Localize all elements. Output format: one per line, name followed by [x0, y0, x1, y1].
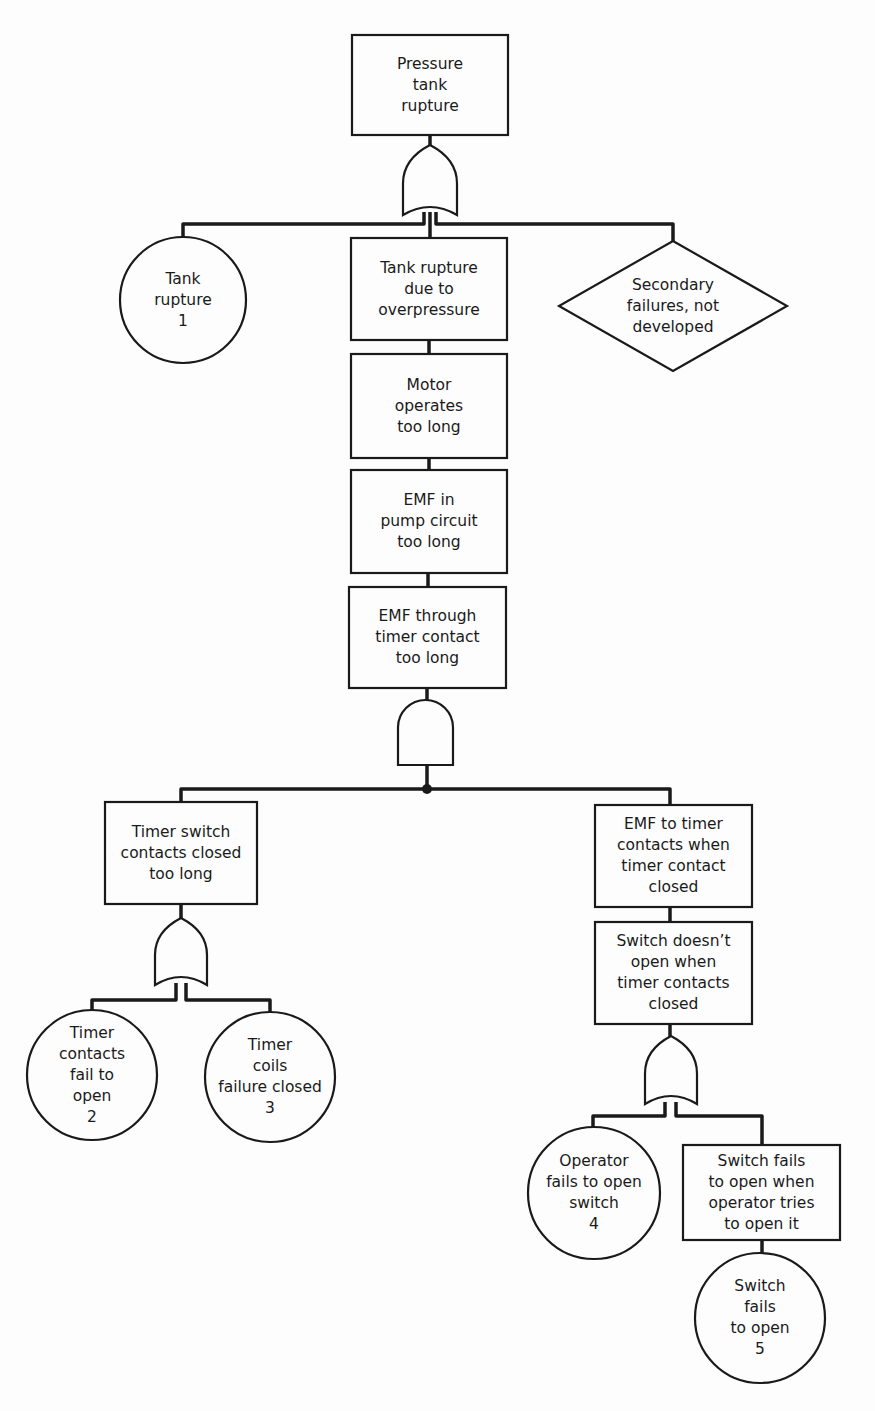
basic-event: Timer contacts fail to open 2 [27, 1010, 157, 1140]
connector-gate-e4 [593, 1102, 665, 1127]
intermediate-event: EMF in pump circuit too long [351, 470, 507, 573]
junction-dot [422, 784, 432, 794]
node-label: Timer coils failure closed 3 [218, 1035, 322, 1119]
node-label: Switch fails to open when operator tries… [709, 1151, 815, 1235]
node-label: Operator fails to open switch 4 [546, 1151, 642, 1235]
intermediate-event: Timer switch contacts closed too long [105, 802, 257, 904]
intermediate-event: Pressure tank rupture [352, 35, 508, 135]
node-label: Timer contacts fail to open 2 [59, 1023, 125, 1128]
node-label: Switch doesn’t open when timer contacts … [617, 931, 731, 1015]
connector-gate-secondary [436, 212, 673, 241]
node-label: Pressure tank rupture [397, 54, 463, 117]
or-gate-icon [645, 1036, 697, 1104]
connector-gate-e3 [186, 983, 270, 1012]
node-label: Tank rupture due to overpressure [378, 258, 480, 321]
node-label: Secondary failures, not developed [627, 275, 719, 338]
or-gate-icon [155, 918, 207, 985]
or-gate-icon [403, 145, 457, 215]
node-label: EMF through timer contact too long [375, 606, 479, 669]
connector-gate-tank-rupture [183, 212, 424, 237]
intermediate-event: Switch doesn’t open when timer contacts … [595, 922, 752, 1024]
intermediate-event: EMF through timer contact too long [349, 587, 506, 688]
basic-event: Operator fails to open switch 4 [528, 1127, 660, 1259]
undeveloped-event: Secondary failures, not developed [559, 241, 787, 371]
node-label: EMF to timer contacts when timer contact… [617, 814, 730, 898]
node-label: EMF in pump circuit too long [380, 490, 477, 553]
basic-event: Switch fails to open 5 [695, 1253, 825, 1383]
connector-gate-b8 [676, 1102, 762, 1145]
and-gate-icon [398, 700, 453, 765]
fault-tree-diagram: Pressure tank ruptureTank rupture 1Tank … [0, 0, 875, 1411]
node-label: Tank rupture 1 [154, 269, 212, 332]
basic-event: Tank rupture 1 [120, 237, 246, 363]
intermediate-event: Tank rupture due to overpressure [351, 238, 507, 340]
connector-gate-e2 [92, 983, 176, 1010]
intermediate-event: Motor operates too long [351, 354, 507, 458]
node-label: Motor operates too long [395, 375, 463, 438]
node-label: Timer switch contacts closed too long [121, 822, 242, 885]
basic-event: Timer coils failure closed 3 [205, 1012, 335, 1142]
intermediate-event: EMF to timer contacts when timer contact… [595, 805, 752, 907]
node-label: Switch fails to open 5 [730, 1276, 789, 1360]
intermediate-event: Switch fails to open when operator tries… [683, 1145, 840, 1240]
